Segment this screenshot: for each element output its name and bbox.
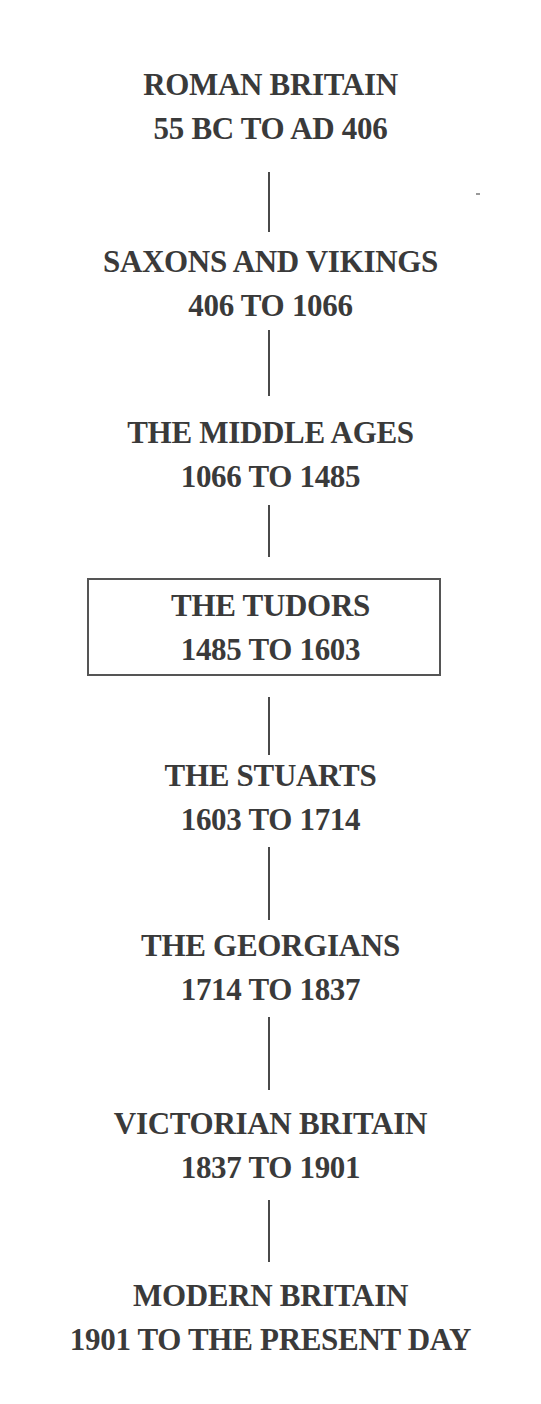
period-dates: 55 BC TO AD 406 bbox=[0, 107, 541, 151]
timeline-connector bbox=[268, 330, 270, 396]
period-dates: 1485 TO 1603 bbox=[0, 628, 541, 672]
period-name: ROMAN BRITAIN bbox=[0, 63, 541, 107]
timeline-connector bbox=[268, 172, 270, 232]
period-dates: 1714 TO 1837 bbox=[0, 968, 541, 1012]
period-modern-britain: MODERN BRITAIN 1901 TO THE PRESENT DAY bbox=[0, 1274, 541, 1362]
period-name: MODERN BRITAIN bbox=[0, 1274, 541, 1318]
period-middle-ages: THE MIDDLE AGES 1066 TO 1485 bbox=[0, 411, 541, 499]
scan-speck bbox=[476, 193, 480, 195]
period-name: THE STUARTS bbox=[0, 754, 541, 798]
period-roman-britain: ROMAN BRITAIN 55 BC TO AD 406 bbox=[0, 63, 541, 151]
period-victorian-britain: VICTORIAN BRITAIN 1837 TO 1901 bbox=[0, 1102, 541, 1190]
period-name: THE GEORGIANS bbox=[0, 924, 541, 968]
timeline-connector bbox=[268, 1017, 270, 1090]
timeline-connector bbox=[268, 847, 270, 920]
period-dates: 1901 TO THE PRESENT DAY bbox=[0, 1318, 541, 1362]
period-name: VICTORIAN BRITAIN bbox=[0, 1102, 541, 1146]
timeline-connector bbox=[268, 505, 270, 557]
period-dates: 406 TO 1066 bbox=[0, 284, 541, 328]
period-name: THE TUDORS bbox=[0, 584, 541, 628]
period-dates: 1603 TO 1714 bbox=[0, 798, 541, 842]
period-name: THE MIDDLE AGES bbox=[0, 411, 541, 455]
timeline-connector bbox=[268, 1200, 270, 1262]
period-dates: 1837 TO 1901 bbox=[0, 1146, 541, 1190]
period-georgians: THE GEORGIANS 1714 TO 1837 bbox=[0, 924, 541, 1012]
period-dates: 1066 TO 1485 bbox=[0, 455, 541, 499]
timeline-connector bbox=[268, 697, 270, 755]
period-tudors: THE TUDORS 1485 TO 1603 bbox=[0, 584, 541, 672]
period-saxons-and-vikings: SAXONS AND VIKINGS 406 TO 1066 bbox=[0, 240, 541, 328]
period-stuarts: THE STUARTS 1603 TO 1714 bbox=[0, 754, 541, 842]
period-name: SAXONS AND VIKINGS bbox=[0, 240, 541, 284]
